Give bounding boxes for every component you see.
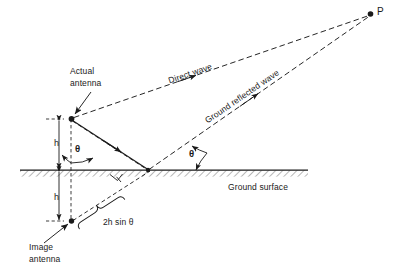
reflection-point-node-dot (146, 168, 150, 172)
image-antenna-node-dot (69, 218, 74, 223)
ground-reflected-wave-path (149, 17, 369, 170)
actual-antenna-leader-line (75, 92, 91, 114)
theta-angle-arc-antenna (62, 155, 93, 163)
direct-wave-path (74, 16, 369, 118)
image-antenna-label-line2: antenna (29, 254, 60, 264)
observation-point-label: P (377, 6, 384, 17)
theta-angle-arc-grazing (192, 146, 207, 170)
image-antenna-label: Imageantenna (29, 242, 60, 265)
actual-antenna-label-line1: Actual (70, 66, 94, 76)
height-label-lower: h (54, 192, 59, 203)
observation-point-node-dot (368, 11, 374, 17)
image-antenna-label-line1: Image (29, 242, 53, 252)
theta-label-grazing: θ (189, 148, 194, 159)
theta-label-antenna: θ (75, 143, 80, 154)
height-label-upper: h (54, 138, 59, 149)
image-antenna-leader-line (44, 224, 68, 243)
ground-surface-hatching (20, 170, 308, 176)
actual-antenna-label: Actualantenna (70, 66, 101, 89)
path-difference-label: 2h sin θ (103, 217, 134, 228)
actual-antenna-node-dot (69, 116, 75, 122)
ground-surface-label: Ground surface (228, 182, 288, 193)
antenna-ground-reflection-diagram: Actualantenna Imageantenna Direct wave G… (0, 0, 394, 280)
incident-ray (73, 121, 149, 170)
actual-antenna-label-line2: antenna (70, 78, 101, 88)
